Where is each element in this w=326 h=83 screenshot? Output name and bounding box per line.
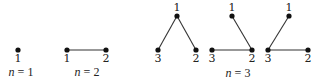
caption-n3: n = 3 [226, 66, 251, 80]
node-label: 1 [15, 52, 22, 65]
node-label: 1 [174, 1, 181, 14]
caption-val: 2 [93, 65, 99, 79]
labeled-trees-diagram: 1 n = 1 1 2 n = 2 1 3 2 1 [0, 0, 326, 83]
node-label: 2 [103, 52, 110, 65]
node-1 [229, 13, 234, 18]
panel-n1: 1 n = 1 [9, 47, 34, 79]
caption-eq: = [232, 66, 245, 80]
caption-val: 3 [244, 66, 250, 80]
edge-1-3 [158, 16, 177, 50]
caption-n2: n = 2 [75, 65, 100, 79]
tree-b: 1 3 2 [209, 1, 256, 65]
node-label: 1 [229, 1, 236, 14]
caption-eq: = [81, 65, 94, 79]
edge-1-3 [268, 16, 289, 50]
caption-n1: n = 1 [9, 65, 34, 79]
node-label: 3 [209, 52, 216, 65]
node-label: 2 [249, 52, 256, 65]
edge-1-2 [177, 16, 196, 50]
panel-n3: 1 3 2 1 3 2 1 3 2 n = 3 [155, 1, 312, 80]
edge-1-2 [232, 16, 252, 50]
caption-val: 1 [27, 65, 33, 79]
tree-c: 1 3 2 [265, 1, 312, 65]
tree-a: 1 3 2 [155, 1, 200, 65]
caption-eq: = [15, 65, 28, 79]
node-label: 2 [305, 52, 312, 65]
node-1 [286, 13, 291, 18]
node-label: 1 [286, 1, 293, 14]
node-label: 1 [64, 52, 71, 65]
node-label: 3 [265, 52, 272, 65]
panel-n2: 1 2 n = 2 [64, 47, 110, 79]
node-label: 2 [193, 52, 200, 65]
node-1 [174, 13, 179, 18]
node-label: 3 [155, 52, 162, 65]
